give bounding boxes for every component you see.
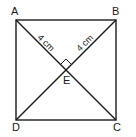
vertex-label-D: D xyxy=(12,121,20,133)
vertex-label-A: A xyxy=(11,5,19,17)
vertex-label-E: E xyxy=(63,74,70,86)
vertex-label-C: C xyxy=(113,121,121,133)
vertex-label-B: B xyxy=(112,5,119,17)
square-diagram: A B C D E 4 cm 4 cm xyxy=(0,0,136,137)
right-angle-marker xyxy=(61,59,71,64)
